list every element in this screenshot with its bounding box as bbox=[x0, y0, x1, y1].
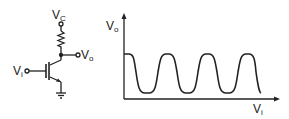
vi-terminal-icon bbox=[25, 69, 29, 73]
vi-input-label: Vi bbox=[13, 64, 23, 79]
x-axis-arrow-icon bbox=[274, 97, 280, 102]
y-axis-label: Vo bbox=[106, 19, 119, 34]
transistor-circuit bbox=[25, 22, 80, 98]
transistor-icon bbox=[46, 62, 49, 80]
y-axis-arrow-icon bbox=[122, 13, 127, 19]
vo-terminal-icon bbox=[76, 53, 80, 57]
ground-icon bbox=[56, 93, 66, 98]
resistor-icon bbox=[58, 31, 64, 55]
diagram-canvas: VC Vo Vi Vo Vi bbox=[0, 0, 289, 119]
x-axis-label: Vi bbox=[253, 102, 263, 117]
vc-label: VC bbox=[52, 8, 66, 23]
vo-curve bbox=[124, 54, 261, 93]
vo-output-label: Vo bbox=[81, 48, 94, 63]
